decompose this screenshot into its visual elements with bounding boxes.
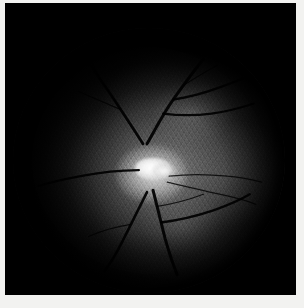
fundus-figure	[0, 0, 304, 308]
field-rim-falloff	[13, 28, 285, 293]
image-canvas	[5, 3, 296, 295]
circular-retinal-field	[13, 28, 285, 293]
